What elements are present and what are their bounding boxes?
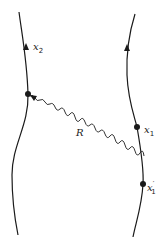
feynman-worldline-diagram: x2 R x1 x′1 [0, 0, 165, 245]
x1-point [134, 124, 140, 130]
x1prime-label: x′1 [147, 180, 156, 196]
x2-point [25, 91, 31, 97]
x1prime-point [140, 181, 146, 187]
arrow-up-icon [124, 44, 130, 51]
propagator-label-r: R [75, 127, 84, 138]
x2-label: x2 [33, 41, 43, 55]
x1-label: x1 [144, 124, 154, 138]
wavy-propagator-line [30, 95, 144, 156]
